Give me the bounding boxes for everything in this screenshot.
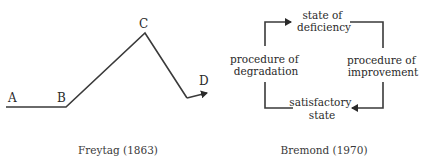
node-procedure-of-improvement: procedure of improvement: [347, 54, 419, 78]
node-state-of-deficiency: state of deficiency: [297, 9, 351, 33]
diagram-canvas: A B C D Freytag (1863) state of deficien…: [0, 0, 421, 164]
node-procedure-of-degradation: procedure of degradation: [230, 53, 302, 77]
freytag-plot-line: [6, 33, 187, 107]
freytag-arrow: [187, 93, 207, 98]
freytag-diagram: A B C D Freytag (1863): [6, 17, 209, 156]
point-label-b: B: [57, 91, 66, 105]
freytag-caption: Freytag (1863): [78, 144, 158, 156]
point-label-a: A: [7, 91, 17, 105]
bremond-diagram: state of deficiency procedure of improve…: [230, 9, 419, 156]
connector-deficiency-to-improvement: [350, 22, 383, 48]
point-label-c: C: [139, 17, 148, 31]
connector-degradation-to-deficiency: [265, 22, 291, 46]
connector-improvement-to-satisfactory: [352, 82, 383, 108]
point-label-d: D: [199, 74, 209, 88]
node-satisfactory-state: satisfactory state: [289, 96, 354, 121]
bremond-caption: Bremond (1970): [281, 144, 368, 156]
